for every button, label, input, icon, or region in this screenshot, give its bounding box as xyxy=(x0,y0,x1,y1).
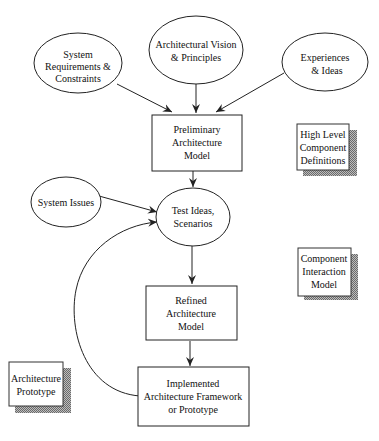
svg-text:Definitions: Definitions xyxy=(301,155,346,166)
svg-text:Interaction: Interaction xyxy=(302,266,345,277)
svg-text:Preliminary: Preliminary xyxy=(173,124,220,135)
svg-text:Component: Component xyxy=(301,253,348,264)
svg-text:or Prototype: or Prototype xyxy=(168,404,218,415)
svg-text:Model: Model xyxy=(184,150,210,161)
svg-text:System Issues: System Issues xyxy=(38,197,95,208)
node-implemented-architecture: Implemented Architecture Framework or Pr… xyxy=(138,367,249,426)
edge-experiences-to-preliminary xyxy=(216,73,284,112)
svg-text:Architectural Vision: Architectural Vision xyxy=(155,39,236,50)
svg-text:Model: Model xyxy=(178,321,204,332)
artifact-architecture-prototype: Architecture Prototype xyxy=(9,362,71,413)
architecture-process-diagram: System Requirements & Constraints Archit… xyxy=(0,0,379,441)
svg-text:& Ideas: & Ideas xyxy=(311,65,342,76)
svg-text:Prototype: Prototype xyxy=(17,386,56,397)
artifact-component-interaction-model: Component Interaction Model xyxy=(298,248,358,300)
svg-text:Component: Component xyxy=(300,142,347,153)
node-system-requirements: System Requirements & Constraints xyxy=(34,33,122,93)
svg-text:Architecture: Architecture xyxy=(172,137,223,148)
svg-text:Architecture: Architecture xyxy=(11,373,62,384)
edge-issues-to-test-ideas xyxy=(99,196,157,212)
node-architectural-vision: Architectural Vision & Principles xyxy=(149,16,243,84)
svg-text:Scenarios: Scenarios xyxy=(174,218,213,229)
node-system-issues: System Issues xyxy=(31,177,101,227)
svg-text:Test Ideas,: Test Ideas, xyxy=(172,205,215,216)
svg-text:High Level: High Level xyxy=(300,129,345,140)
svg-text:& Principles: & Principles xyxy=(171,52,221,63)
artifact-high-level-component-definitions: High Level Component Definitions xyxy=(297,124,357,176)
svg-text:Implemented: Implemented xyxy=(167,378,220,389)
svg-text:Refined: Refined xyxy=(175,295,207,306)
node-test-ideas: Test Ideas, Scenarios xyxy=(156,188,230,246)
svg-text:Requirements &: Requirements & xyxy=(45,61,111,72)
svg-text:Model: Model xyxy=(311,279,337,290)
svg-text:System: System xyxy=(63,49,93,60)
svg-text:Architecture: Architecture xyxy=(166,308,217,319)
node-experiences-ideas: Experiences & Ideas xyxy=(282,33,368,91)
svg-text:Constraints: Constraints xyxy=(55,73,101,84)
node-preliminary-architecture: Preliminary Architecture Model xyxy=(152,115,242,171)
node-refined-architecture: Refined Architecture Model xyxy=(146,286,237,340)
svg-text:Experiences: Experiences xyxy=(301,52,350,63)
edge-requirements-to-preliminary xyxy=(117,84,172,112)
svg-text:Architecture Framework: Architecture Framework xyxy=(144,391,243,402)
